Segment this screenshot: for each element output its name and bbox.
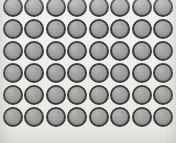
circular-disc (110, 107, 130, 127)
circular-disc (110, 19, 130, 39)
circular-disc (46, 41, 66, 61)
circular-disc (110, 63, 130, 83)
circular-disc (46, 0, 66, 17)
disc-grid (0, 0, 176, 143)
circular-disc (3, 107, 23, 127)
circular-disc (153, 41, 173, 61)
circular-disc (24, 19, 44, 39)
circular-disc (110, 41, 130, 61)
circular-disc (24, 107, 44, 127)
circular-disc (153, 19, 173, 39)
circular-disc (153, 107, 173, 127)
circular-disc (46, 85, 66, 105)
circular-disc (46, 107, 66, 127)
circular-disc (89, 63, 109, 83)
circular-disc (46, 63, 66, 83)
circular-disc (67, 85, 87, 105)
circular-disc (3, 0, 23, 17)
circular-disc (67, 0, 87, 17)
circular-disc (132, 63, 152, 83)
circular-disc (67, 107, 87, 127)
circular-disc (67, 19, 87, 39)
circular-disc (132, 41, 152, 61)
circular-disc (132, 19, 152, 39)
circular-disc (67, 63, 87, 83)
circular-disc (153, 0, 173, 17)
circular-disc (89, 107, 109, 127)
circular-disc (89, 41, 109, 61)
circular-disc (24, 85, 44, 105)
circular-disc (3, 63, 23, 83)
circular-disc (24, 0, 44, 17)
circular-disc (24, 41, 44, 61)
circular-disc (3, 41, 23, 61)
circular-disc (67, 41, 87, 61)
circular-disc (24, 63, 44, 83)
circular-disc (132, 107, 152, 127)
circular-disc (132, 85, 152, 105)
circular-disc (46, 19, 66, 39)
circular-disc (89, 0, 109, 17)
circular-disc (132, 0, 152, 17)
circular-disc (3, 19, 23, 39)
circular-disc (110, 0, 130, 17)
circular-disc (153, 85, 173, 105)
circular-disc (89, 19, 109, 39)
circular-disc (89, 85, 109, 105)
image-canvas (0, 0, 176, 143)
circular-disc (153, 63, 173, 83)
circular-disc (110, 85, 130, 105)
circular-disc (3, 85, 23, 105)
